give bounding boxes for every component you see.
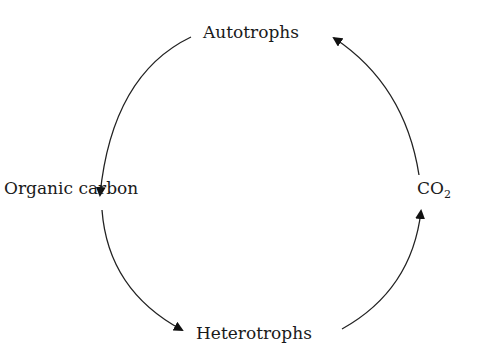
arrow-organic-carbon-to-heterotrophs (102, 210, 182, 330)
node-label: Heterotrophs (196, 323, 312, 343)
arrow-autotrophs-to-organic-carbon (100, 37, 191, 195)
node-label: Autotrophs (203, 22, 299, 42)
arrow-heterotrophs-to-co2 (342, 211, 421, 329)
node-label: CO (417, 178, 444, 198)
node-organic-carbon: Organic carbon (4, 180, 138, 197)
carbon-cycle-diagram: Autotrophs Organic carbon Heterotrophs C… (0, 0, 480, 363)
node-co2: CO2 (417, 180, 451, 197)
node-label: Organic carbon (4, 178, 138, 198)
arrow-co2-to-autotrophs (334, 38, 419, 175)
node-label-subscript: 2 (444, 188, 451, 201)
node-heterotrophs: Heterotrophs (196, 325, 312, 342)
node-autotrophs: Autotrophs (203, 24, 299, 41)
